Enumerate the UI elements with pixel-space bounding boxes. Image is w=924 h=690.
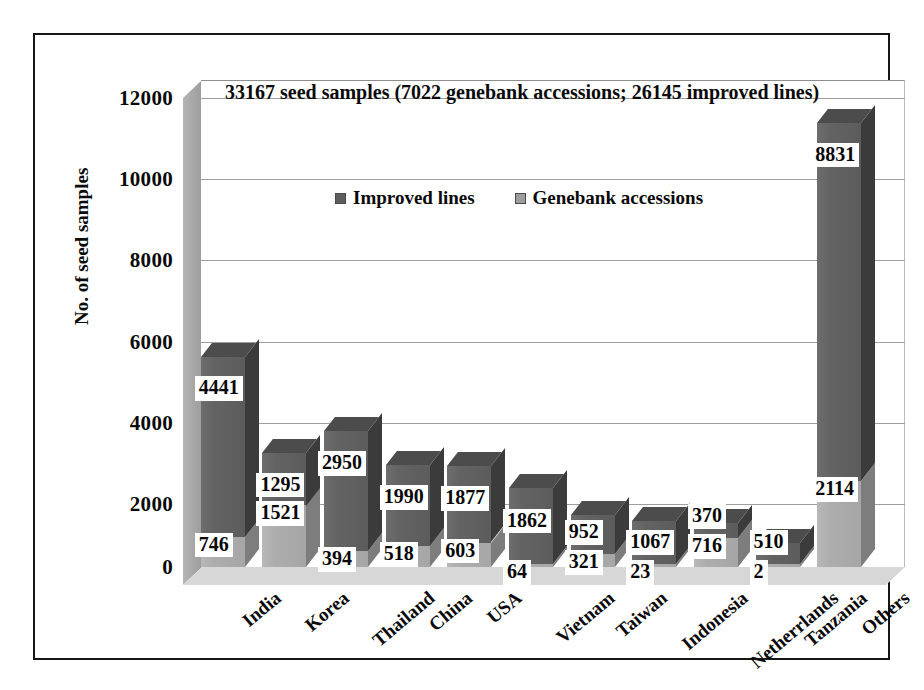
y-axis-title: No. of seed samples [71,168,93,325]
bar-face-side [368,413,382,551]
bar-group[interactable]: 186264 [509,80,553,585]
x-axis-category-label: Korea [301,587,354,636]
legend-swatch-icon [335,193,346,204]
bar-group[interactable]: 952321 [571,80,615,585]
chart-title: 33167 seed samples (7022 genebank access… [225,81,819,104]
bar-face-front [817,123,861,481]
bar-group[interactable]: 2950394 [324,80,368,585]
x-axis-category-label: USA [483,587,526,628]
bar-group[interactable]: 12951521 [262,80,306,585]
bar-face-side [861,463,875,567]
bar-value-label-genebank: 394 [318,547,356,572]
bar-segment-improved-lines[interactable] [324,431,368,551]
bar-value-label-genebank: 1521 [256,501,304,526]
bar-value-label-improved-lines: 510 [750,530,788,555]
y-axis-tick-label: 10000 [119,167,173,192]
bar-group[interactable]: 4441746 [201,80,245,585]
x-axis-category-label: China [424,587,476,636]
x-axis-category-label: India [238,587,285,632]
bar-value-label-improved-lines: 4441 [195,376,243,401]
bar-group[interactable]: 1877603 [447,80,491,585]
y-axis-tick-label: 2000 [130,491,173,516]
x-axis-category-label: Vietnam [552,587,619,648]
x-axis-category-label: Indonesia [678,587,753,655]
bar-value-label-improved-lines: 2950 [318,451,366,476]
bar-face-side [861,105,875,481]
bar-value-label-improved-lines: 370 [688,504,726,529]
bar-value-label-genebank: 518 [380,542,418,567]
y-axis-tick-label: 0 [162,555,173,580]
y-axis-tick-label: 12000 [119,86,173,111]
legend-entry: Improved lines [335,187,475,209]
legend-swatch-icon [515,193,526,204]
bar-value-label-genebank: 746 [195,533,233,558]
bar-value-label-genebank: 603 [441,539,479,564]
bar-value-label-improved-lines: 1877 [441,486,489,511]
bar-value-label-genebank: 321 [565,550,603,575]
bar-group[interactable]: 1990518 [386,80,430,585]
bar-value-label-improved-lines: 952 [565,520,603,545]
bar-value-label-improved-lines: 1295 [256,473,304,498]
legend-label: Genebank accessions [533,187,704,209]
x-axis-category-labels: IndiaKoreaThailandChinaUSAVietnamTaiwanI… [183,587,905,687]
bar-value-label-genebank: 64 [503,560,531,585]
legend-entry: Genebank accessions [515,187,704,209]
x-axis-category-label: Others [857,587,914,640]
y-axis-tick-label: 4000 [130,410,173,435]
bar-value-label-genebank: 23 [626,560,654,585]
bar-value-label-improved-lines: 1990 [380,485,428,510]
bar-value-label-genebank: 716 [688,534,726,559]
bar-face-front [324,431,368,551]
bar-value-label-genebank: 2 [750,560,768,585]
bar-value-label-improved-lines: 1067 [626,530,674,555]
bar-group[interactable]: 5102 [756,80,800,585]
bar-segment-improved-lines[interactable] [817,123,861,481]
chart-frame: No. of seed samples 12000100008000600040… [33,33,890,660]
bar-group[interactable]: 106723 [632,80,676,585]
y-axis-tick-label: 6000 [130,329,173,354]
bar-value-label-improved-lines: 1862 [503,509,551,534]
chart-figure: No. of seed samples 12000100008000600040… [0,0,924,690]
plot-area: 120001000080006000400020000 444174612951… [183,80,905,585]
bars-layer: 4441746129515212950394199051818776031862… [183,80,905,585]
bar-group[interactable]: 88312114 [817,80,861,585]
legend-label: Improved lines [353,187,475,209]
chart-legend: Improved linesGenebank accessions [335,187,703,209]
x-axis-category-label: Taiwan [612,587,672,642]
bar-value-label-genebank: 2114 [811,477,858,502]
y-axis-tick-label: 8000 [130,248,173,273]
bar-group[interactable]: 370716 [694,80,738,585]
bar-value-label-improved-lines: 8831 [811,143,859,168]
